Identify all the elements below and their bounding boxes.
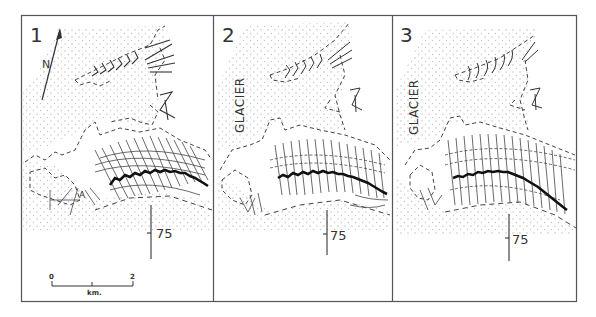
scale-bar: 0 2 km. [49,273,135,297]
panel-3: 3 GLACIER 75 [395,23,576,261]
panel-1: 1 N [23,23,212,297]
panel-number: 3 [400,23,413,47]
north-label: N [42,58,50,71]
crevasse-hatching [95,136,208,200]
point-label: A [79,190,86,200]
glacier-label: GLACIER [233,77,247,133]
panel-2: 2 GLACIER 75 [216,22,390,255]
grid-label: 75 [330,228,347,243]
glacier-area-lower [23,160,212,232]
glacier-label: GLACIER [407,79,421,135]
panel-number: 1 [30,23,43,47]
grid-label: 75 [156,226,173,241]
crevasse-hatching [420,134,575,214]
scale-start-label: 0 [49,273,54,281]
panel-number: 2 [222,23,235,47]
ice-front-line [278,171,387,194]
scale-end-label: 2 [130,273,135,281]
figure: 1 N [0,0,596,317]
grid-label: 75 [512,232,529,247]
scale-unit-label: km. [87,289,102,297]
